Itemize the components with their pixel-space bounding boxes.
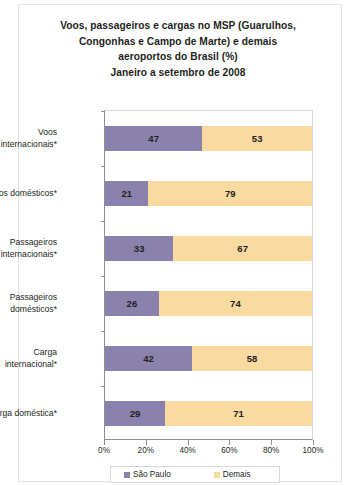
category-label: Carga doméstica* xyxy=(0,408,57,420)
x-axis-tick xyxy=(146,440,147,445)
chart-legend: São Paulo Demais xyxy=(110,466,280,483)
x-axis-tick xyxy=(229,440,230,445)
x-axis-tick xyxy=(313,440,314,445)
bar-segment-sao-paulo: 33 xyxy=(105,236,173,261)
category-label-line: internacional* xyxy=(0,359,57,371)
category-label-line: internacionais* xyxy=(0,139,57,151)
plot-area: Voosinternacionais*4753Voos domésticos*2… xyxy=(104,110,313,440)
chart-title-line-4: Janeiro a setembro de 2008 xyxy=(28,65,328,81)
stacked-bar: 4258 xyxy=(105,346,312,371)
bar-segment-sao-paulo: 47 xyxy=(105,126,202,151)
x-axis-tick-label: 40% xyxy=(179,446,195,455)
category-label-line: domésticos* xyxy=(0,304,57,316)
y-axis-tick xyxy=(101,386,105,387)
y-axis-tick xyxy=(101,331,105,332)
legend-label-sao-paulo: São Paulo xyxy=(133,470,171,479)
x-axis-tick xyxy=(188,440,189,445)
category-label-line: Passageiros xyxy=(0,292,57,304)
bar-segment-demais: 58 xyxy=(192,346,312,371)
x-axis-tick-label: 60% xyxy=(221,446,237,455)
stacked-bar: 3367 xyxy=(105,236,312,261)
chart-row: Passageirosdomésticos*2674 xyxy=(105,276,312,331)
bar-segment-demais: 74 xyxy=(159,291,312,316)
y-axis-tick xyxy=(101,166,105,167)
y-axis-tick xyxy=(101,276,105,277)
chart-row: Cargainternacional*4258 xyxy=(105,331,312,386)
chart-title: Voos, passageiros e cargas no MSP (Guaru… xyxy=(28,18,328,80)
bar-segment-demais: 53 xyxy=(202,126,312,151)
category-label-line: Carga doméstica* xyxy=(0,408,57,420)
chart-row: Carga doméstica*2971 xyxy=(105,386,312,441)
x-axis-tick xyxy=(271,440,272,445)
legend-item-sao-paulo: São Paulo xyxy=(124,470,171,479)
chart-row: Voos domésticos*2179 xyxy=(105,166,312,221)
y-axis-tick xyxy=(101,221,105,222)
category-label: Voos domésticos* xyxy=(0,188,57,200)
x-axis-tick-label: 100% xyxy=(303,446,324,455)
chart-figure: Voos, passageiros e cargas no MSP (Guaru… xyxy=(0,0,351,485)
category-label: Cargainternacional* xyxy=(0,347,57,370)
bar-segment-sao-paulo: 26 xyxy=(105,291,159,316)
chart-title-line-3: aeroportos do Brasil (%) xyxy=(28,49,328,65)
x-axis-ticks xyxy=(104,440,313,445)
legend-swatch-icon-sao-paulo xyxy=(124,472,130,478)
legend-item-demais: Demais xyxy=(214,470,251,479)
category-label-line: Carga xyxy=(0,347,57,359)
category-label-line: internacionais* xyxy=(0,249,57,261)
chart-row: Passageirosinternacionais*3367 xyxy=(105,221,312,276)
bar-segment-sao-paulo: 21 xyxy=(105,181,148,206)
chart-row: Voosinternacionais*4753 xyxy=(105,111,312,166)
stacked-bar: 2179 xyxy=(105,181,312,206)
x-axis-tick-label: 80% xyxy=(263,446,279,455)
category-label: Voosinternacionais* xyxy=(0,127,57,150)
x-axis-labels: 0%20%40%60%80%100% xyxy=(104,446,313,460)
stacked-bar: 2971 xyxy=(105,401,312,426)
legend-swatch-icon-demais xyxy=(214,472,220,478)
chart-title-line-1: Voos, passageiros e cargas no MSP (Guaru… xyxy=(28,18,328,34)
legend-label-demais: Demais xyxy=(223,470,251,479)
x-axis-tick-label: 0% xyxy=(98,446,110,455)
stacked-bar: 2674 xyxy=(105,291,312,316)
x-axis-tick-label: 20% xyxy=(138,446,154,455)
category-label: Passageirosdomésticos* xyxy=(0,292,57,315)
bar-segment-demais: 79 xyxy=(148,181,312,206)
x-axis-tick xyxy=(104,440,105,445)
bar-segment-sao-paulo: 29 xyxy=(105,401,165,426)
category-label-line: Voos xyxy=(0,127,57,139)
chart-title-line-2: Congonhas e Campo de Marte) e demais xyxy=(28,34,328,50)
y-axis-tick xyxy=(101,111,105,112)
category-label: Passageirosinternacionais* xyxy=(0,237,57,260)
bar-segment-demais: 71 xyxy=(165,401,312,426)
category-label-line: Voos domésticos* xyxy=(0,188,57,200)
stacked-bar: 4753 xyxy=(105,126,312,151)
category-label-line: Passageiros xyxy=(0,237,57,249)
bar-segment-sao-paulo: 42 xyxy=(105,346,192,371)
bar-segment-demais: 67 xyxy=(173,236,312,261)
